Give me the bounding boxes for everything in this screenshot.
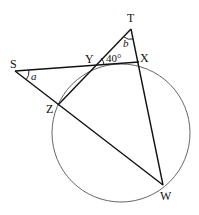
label-x: X <box>140 51 149 65</box>
label-y: Y <box>85 52 94 66</box>
angle-arc-a <box>26 70 29 80</box>
angle-label-40: 40° <box>106 52 121 64</box>
label-z: Z <box>46 102 53 116</box>
label-w: W <box>160 189 172 203</box>
angle-label-a: a <box>31 70 37 82</box>
label-s: S <box>10 57 17 71</box>
segment-sw <box>15 71 163 185</box>
angle-label-b: b <box>123 37 129 49</box>
geometry-diagram: S Y X T Z W a b 40° <box>0 0 199 215</box>
label-t: T <box>127 11 135 25</box>
circle <box>52 64 190 202</box>
